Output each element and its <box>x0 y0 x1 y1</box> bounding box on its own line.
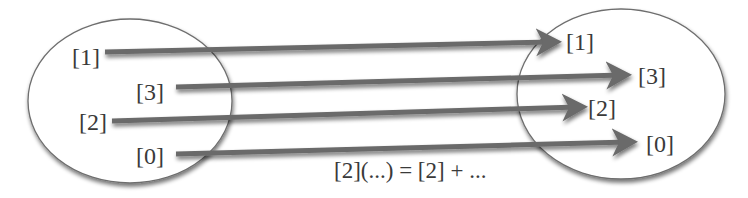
right-label-1: [1] <box>566 29 594 55</box>
right-label-3: [3] <box>638 63 666 89</box>
left-label-1: [1] <box>72 44 100 70</box>
left-label-3: [3] <box>136 79 164 105</box>
right-set-ellipse <box>517 9 725 179</box>
left-label-2: [2] <box>79 109 107 135</box>
right-label-2: [2] <box>588 95 616 121</box>
right-label-0: [0] <box>646 131 674 157</box>
set-mapping-diagram: [1] [3] [2] [0] [1] [3] [2] [0] [2](...)… <box>0 0 748 198</box>
formula-text: [2](...) = [2] + ... <box>334 158 486 183</box>
left-set-ellipse <box>28 19 232 183</box>
left-label-0: [0] <box>136 143 164 169</box>
